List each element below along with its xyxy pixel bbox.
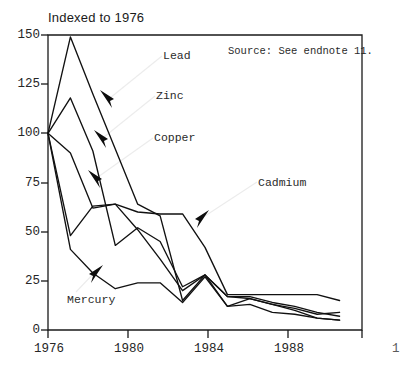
leader-line-cadmium	[205, 182, 257, 216]
plot-frame	[48, 35, 362, 330]
arrow-marker-mercury	[89, 265, 103, 283]
plot-frame-rect	[48, 35, 362, 330]
arrow-marker-lead	[100, 90, 114, 108]
series-line-lead	[48, 37, 340, 320]
leader-line-copper	[98, 138, 153, 177]
data-series-lines	[48, 37, 340, 320]
annotation-arrow-markers	[88, 90, 209, 283]
arrow-marker-zinc	[94, 130, 108, 148]
arrow-marker-cadmium	[195, 210, 209, 228]
leader-line-zinc	[104, 96, 155, 137]
series-line-mercury	[48, 133, 340, 320]
axis-ticks	[41, 35, 362, 338]
leader-line-lead	[110, 56, 162, 98]
arrow-marker-copper	[88, 170, 102, 188]
annotation-leader-lines	[76, 56, 257, 292]
